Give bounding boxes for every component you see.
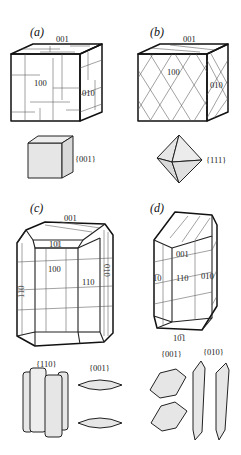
panel-a-label: (a)	[30, 25, 44, 39]
bladed-crystal-d: 001 1̅0 110 010 10̅1	[153, 212, 217, 343]
face-label-1bar10: 1̅0	[153, 273, 162, 283]
prism-habit-110: {110}	[23, 359, 68, 437]
octahedron-habit-b: {111}	[157, 135, 226, 183]
habit-label-010: {010}	[203, 347, 224, 357]
cube-crystal-a: 001 100 010	[11, 34, 102, 121]
panel-c-label: (c)	[30, 201, 43, 215]
hex-plate-habit-001: {001}	[150, 349, 187, 431]
face-label-010: 010	[82, 88, 95, 98]
face-label-010: 010	[201, 271, 214, 281]
face-label-110: 110	[176, 273, 188, 283]
habit-label-001: {001}	[75, 154, 96, 164]
panel-b: (b)	[138, 25, 228, 183]
face-label-001: 001	[56, 34, 69, 44]
face-label-100: 100	[167, 67, 180, 77]
face-label-001: 001	[64, 213, 77, 223]
prismatic-crystal-c: 001 101 100 110 110 010	[16, 213, 113, 346]
face-label-010: 010	[102, 264, 112, 277]
face-label-100: 100	[34, 78, 47, 88]
panel-b-label: (b)	[150, 25, 164, 39]
panel-d: (d) 00	[150, 201, 229, 440]
panel-d-label: (d)	[150, 201, 164, 215]
face-label-001: 001	[176, 249, 189, 259]
face-label-001: 001	[183, 34, 196, 44]
plate-habit-001: {001}	[78, 363, 122, 428]
face-label-101bar: 10̅1	[173, 333, 186, 343]
face-label-110-left: 110	[16, 286, 26, 298]
face-label-010: 010	[210, 80, 223, 90]
habit-label-001: {001}	[161, 349, 182, 359]
habit-label-001: {001}	[89, 363, 110, 373]
habit-label-111: {111}	[206, 155, 226, 165]
face-label-101: 101	[49, 239, 62, 249]
face-label-100: 100	[48, 264, 61, 274]
cube-crystal-b: 001 100 010	[138, 34, 228, 121]
crystal-habit-diagram: (a)	[0, 0, 241, 455]
panel-a: (a)	[11, 25, 102, 178]
blade-habit-010: {010}	[193, 347, 229, 440]
face-label-110-right: 110	[82, 277, 94, 287]
cube-habit-a: {001}	[28, 136, 96, 178]
panel-c: (c)	[16, 201, 122, 437]
